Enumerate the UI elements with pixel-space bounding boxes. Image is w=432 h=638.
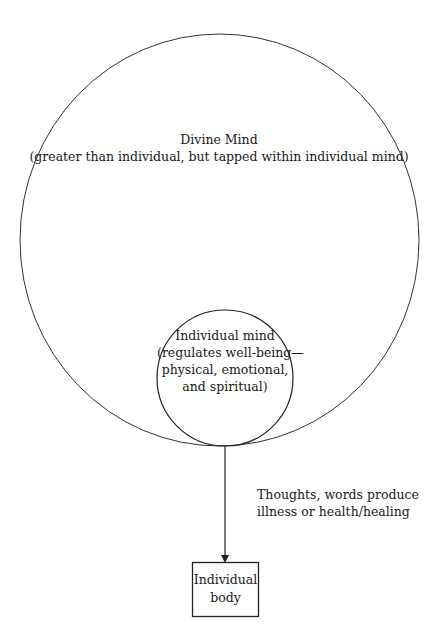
- individual-body-line: Individual: [192, 571, 259, 589]
- connector-label: Thoughts, words produce illness or healt…: [257, 486, 419, 520]
- individual-body-line: body: [192, 589, 259, 607]
- divine-mind-title: Divine Mind: [0, 131, 432, 148]
- connector-line: Thoughts, words produce: [257, 486, 419, 503]
- arrow-head-icon: [221, 555, 229, 563]
- individual-body-label: Individual body: [192, 571, 259, 607]
- divine-mind-diagram: [0, 0, 432, 638]
- individual-mind-line: (regulates well-being—: [157, 344, 293, 361]
- individual-mind-line: physical, emotional,: [157, 361, 293, 378]
- connector-line: illness or health/healing: [257, 503, 419, 520]
- individual-mind-label: Individual mind (regulates well-being— p…: [157, 327, 293, 395]
- individual-mind-line: Individual mind: [157, 327, 293, 344]
- individual-mind-line: and spiritual): [157, 378, 293, 395]
- divine-mind-subtitle: (greater than individual, but tapped wit…: [0, 148, 432, 165]
